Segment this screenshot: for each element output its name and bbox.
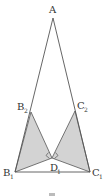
label-d1-sub: 1 — [57, 168, 61, 175]
label-a: A — [48, 4, 57, 15]
triangle-diagram: A B 2 C 2 D 1 B 1 C 1 — [0, 0, 105, 196]
caption-glyph-partial — [49, 193, 55, 196]
label-b2-sub: 2 — [24, 107, 28, 114]
label-c2-sub: 2 — [84, 106, 88, 113]
label-b1-sub: 1 — [10, 173, 14, 180]
label-c1-sub: 1 — [99, 173, 103, 180]
shaded-triangle-left — [15, 112, 52, 172]
